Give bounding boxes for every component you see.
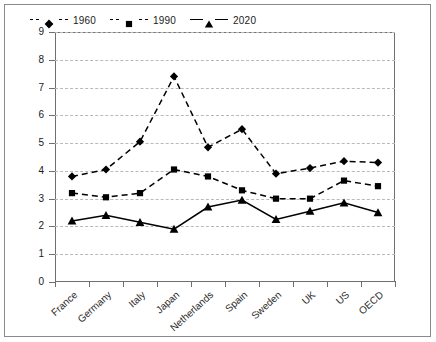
gridline — [55, 199, 395, 200]
y-tick — [49, 226, 55, 227]
legend-swatch-1960 — [30, 14, 68, 26]
gridline — [55, 226, 395, 227]
x-tick — [55, 281, 56, 287]
legend-item-1990: 1990 — [110, 14, 176, 26]
x-tick — [293, 281, 294, 287]
x-tick — [225, 281, 226, 287]
y-tick — [49, 171, 55, 172]
y-tick-label: 4 — [20, 165, 44, 176]
y-axis-line — [55, 32, 56, 282]
y-tick-label: 3 — [20, 193, 44, 204]
y-tick-label: 0 — [20, 276, 44, 287]
gridline — [55, 88, 395, 89]
gridline — [55, 115, 395, 116]
gridline — [55, 32, 395, 33]
y-tick-label: 1 — [20, 248, 44, 259]
x-tick — [191, 281, 192, 287]
y-tick-label: 6 — [20, 109, 44, 120]
legend-label-2020: 2020 — [231, 15, 256, 26]
diamond-marker-icon — [44, 15, 54, 33]
y-tick-label: 9 — [20, 26, 44, 37]
y-tick — [49, 254, 55, 255]
legend-item-1960: 1960 — [30, 14, 96, 26]
y-tick — [49, 115, 55, 116]
square-marker-icon — [124, 15, 134, 33]
gridline — [55, 60, 395, 61]
gridline — [55, 254, 395, 255]
x-tick — [361, 281, 362, 287]
legend-swatch-1990 — [110, 14, 148, 26]
chart-legend: 1960 1990 2020 — [30, 11, 256, 29]
gridline — [55, 171, 395, 172]
y-tick — [49, 32, 55, 33]
y-tick — [49, 143, 55, 144]
x-tick — [327, 281, 328, 287]
x-tick — [395, 281, 396, 287]
y-tick-label: 2 — [20, 220, 44, 231]
gridline — [55, 143, 395, 144]
chart-screenshot: 1960 1990 2020 0123456 — [0, 0, 436, 342]
y-tick-label: 8 — [20, 54, 44, 65]
y-tick — [49, 88, 55, 89]
plot-area — [55, 32, 395, 282]
x-tick — [89, 281, 90, 287]
x-tick — [157, 281, 158, 287]
y-tick — [49, 60, 55, 61]
legend-item-2020: 2020 — [190, 14, 256, 26]
y-tick-label: 5 — [20, 137, 44, 148]
y-tick — [49, 199, 55, 200]
y-tick-label: 7 — [20, 82, 44, 93]
x-tick — [259, 281, 260, 287]
legend-swatch-2020 — [190, 14, 228, 26]
triangle-marker-icon — [204, 15, 214, 33]
x-tick — [123, 281, 124, 287]
legend-label-1960: 1960 — [71, 15, 96, 26]
legend-label-1990: 1990 — [151, 15, 176, 26]
